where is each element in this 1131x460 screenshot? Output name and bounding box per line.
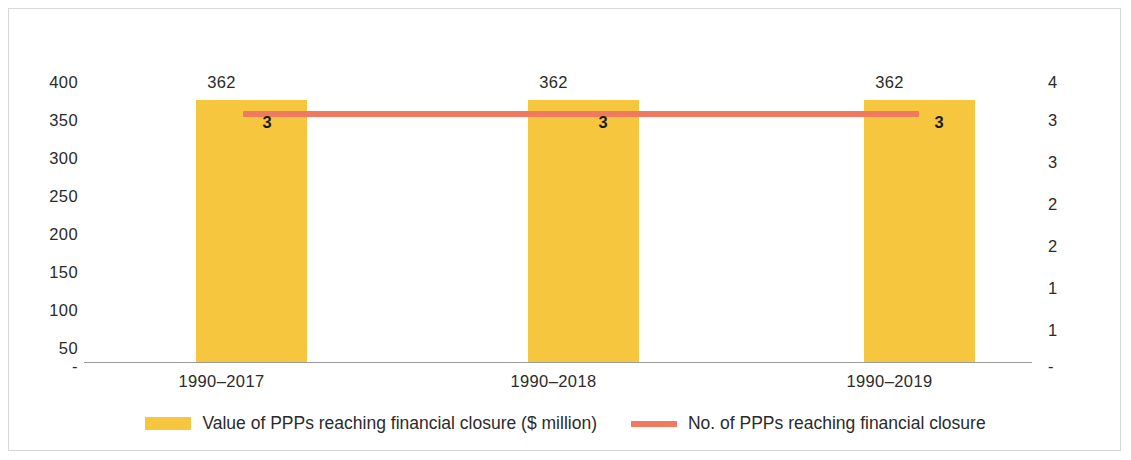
left-axis-tick: 150 <box>22 264 78 281</box>
right-axis-tick: 3 <box>1048 112 1104 129</box>
right-axis-tick: 4 <box>1048 74 1104 91</box>
chart-legend: Value of PPPs reaching financial closure… <box>0 415 1131 433</box>
left-axis-tick: 200 <box>22 226 78 243</box>
plot-area <box>84 62 1032 362</box>
legend-item-line-series[interactable]: No. of PPPs reaching financial closure <box>631 415 986 433</box>
x-axis-category-label: 1990–2018 <box>468 373 639 390</box>
legend-line-swatch-icon <box>631 421 677 427</box>
legend-label: Value of PPPs reaching financial closure… <box>202 415 597 433</box>
bar-1990-2017 <box>196 100 307 362</box>
zero-axis-line <box>84 362 1032 363</box>
right-axis-tick: 1 <box>1048 322 1104 339</box>
line-value-label: 3 <box>587 114 619 131</box>
right-axis-tick-zero: - <box>1048 358 1104 375</box>
line-value-label: 3 <box>923 114 955 131</box>
bar-value-label: 362 <box>498 74 609 91</box>
bar-1990-2019 <box>864 100 975 362</box>
left-axis-tick: 50 <box>22 340 78 357</box>
left-axis-tick: 100 <box>22 302 78 319</box>
line-series-ppp-count <box>243 111 919 117</box>
left-y-axis: 400 350 300 250 200 150 100 50 - <box>22 62 78 374</box>
line-value-label: 3 <box>251 114 283 131</box>
right-axis-tick: 1 <box>1048 280 1104 297</box>
legend-item-bar-series[interactable]: Value of PPPs reaching financial closure… <box>145 415 597 433</box>
left-axis-tick: 250 <box>22 188 78 205</box>
right-y-axis: 4 3 3 2 2 1 1 - <box>1048 62 1104 374</box>
right-axis-tick: 2 <box>1048 196 1104 213</box>
left-axis-tick: 400 <box>22 74 78 91</box>
bar-value-label: 362 <box>834 74 945 91</box>
x-axis-category-label: 1990–2019 <box>804 373 975 390</box>
legend-label: No. of PPPs reaching financial closure <box>688 415 986 433</box>
bar-value-label: 362 <box>166 74 277 91</box>
x-axis-category-label: 1990–2017 <box>136 373 307 390</box>
right-axis-tick: 2 <box>1048 238 1104 255</box>
legend-bar-swatch-icon <box>145 417 191 430</box>
left-axis-tick-zero: - <box>22 358 78 375</box>
chart-container: 400 350 300 250 200 150 100 50 - 4 3 3 2… <box>0 0 1131 460</box>
left-axis-tick: 300 <box>22 150 78 167</box>
bar-1990-2018 <box>528 100 639 362</box>
right-axis-tick: 3 <box>1048 154 1104 171</box>
left-axis-tick: 350 <box>22 112 78 129</box>
